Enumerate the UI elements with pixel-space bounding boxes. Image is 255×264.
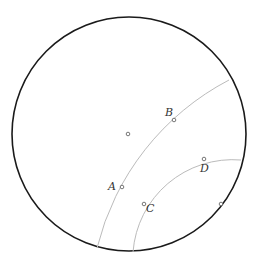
diagram-canvas: A B C D — [0, 0, 255, 264]
point-label-a: A — [107, 180, 116, 193]
geodesic-AB — [97, 80, 229, 248]
boundary-point — [219, 202, 223, 206]
point-label-d: D — [199, 162, 209, 175]
poincare-disk-figure: A B C D — [0, 0, 255, 264]
point-d — [202, 157, 206, 161]
point-label-c: C — [146, 202, 155, 215]
point-a — [120, 185, 124, 189]
center-point — [126, 132, 130, 136]
point-label-b: B — [164, 106, 173, 119]
